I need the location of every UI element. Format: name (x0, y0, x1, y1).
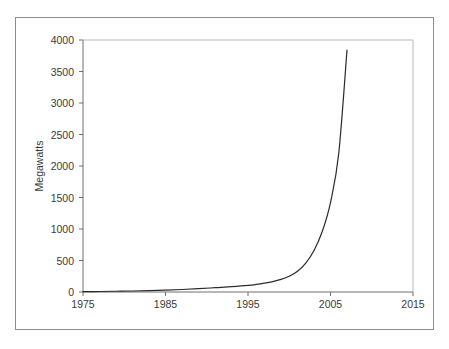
x-tick-label: 2015 (401, 298, 425, 310)
y-tick-label: 3000 (51, 97, 75, 109)
y-tick-label: 1000 (51, 223, 75, 235)
axes (83, 40, 413, 292)
y-tick-label: 3500 (51, 66, 75, 78)
line-chart: 05001000150020002500300035004000 1975198… (0, 0, 449, 349)
y-tick-label: 1500 (51, 192, 75, 204)
series-line-installed-capacity (83, 50, 347, 292)
x-tick-label: 1985 (154, 298, 178, 310)
y-tick-label: 0 (68, 286, 74, 298)
y-axis-title: Megawatts (33, 141, 45, 192)
x-tick-label: 1995 (236, 298, 260, 310)
chart-figure: 05001000150020002500300035004000 1975198… (0, 0, 449, 349)
y-tick-label: 4000 (51, 34, 75, 46)
x-tick-label: 2005 (319, 298, 343, 310)
y-tick-label: 2500 (51, 129, 75, 141)
y-tick-label: 500 (56, 255, 74, 267)
y-axis-ticks: 05001000150020002500300035004000 (51, 34, 83, 298)
x-axis-ticks: 19751985199520052015 (71, 292, 425, 310)
x-tick-label: 1975 (71, 298, 95, 310)
plot-frame (83, 40, 413, 292)
y-tick-label: 2000 (51, 160, 75, 172)
